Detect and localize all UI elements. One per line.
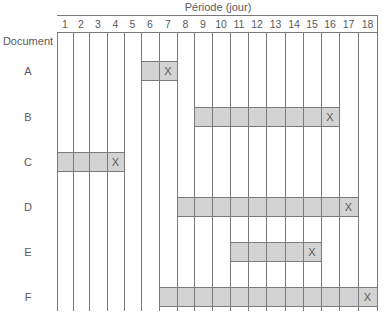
period-label: 12 (251, 18, 263, 30)
axis-title: Période (jour) (185, 1, 252, 13)
period-label: 15 (306, 18, 318, 30)
gantt-chart: Période (jour) Document 1234567891011121… (0, 0, 383, 320)
task-label: B (24, 111, 31, 123)
completion-marker: X (164, 65, 172, 77)
period-label: 9 (200, 18, 206, 30)
period-label: 10 (215, 18, 227, 30)
completion-marker: X (345, 201, 353, 213)
period-label: 16 (324, 18, 336, 30)
period-label: 18 (362, 18, 374, 30)
completion-marker: X (112, 156, 120, 168)
period-label: 4 (113, 18, 119, 30)
period-label: 1 (62, 18, 68, 30)
task-label: A (24, 65, 32, 77)
period-label: 7 (165, 18, 171, 30)
completion-marker: X (326, 111, 334, 123)
task-label: D (24, 201, 32, 213)
task-labels: ABCDEF (24, 65, 32, 303)
completion-marker: X (364, 291, 372, 303)
period-label: 3 (95, 18, 101, 30)
task-bar-f (160, 288, 378, 307)
period-label: 14 (288, 18, 300, 30)
period-label: 8 (183, 18, 189, 30)
task-label: C (24, 156, 32, 168)
period-label: 13 (270, 18, 282, 30)
period-tick-labels: 123456789101112131415161718 (62, 18, 373, 30)
period-label: 2 (78, 18, 84, 30)
task-label: E (24, 246, 31, 258)
task-bars: XXXXXX (58, 62, 378, 307)
period-label: 17 (343, 18, 355, 30)
task-label: F (25, 291, 32, 303)
period-label: 5 (130, 18, 136, 30)
completion-marker: X (308, 246, 316, 258)
task-bar-d (178, 198, 359, 217)
period-label: 11 (234, 18, 245, 30)
row-header-document: Document (3, 35, 53, 47)
period-label: 6 (147, 18, 153, 30)
